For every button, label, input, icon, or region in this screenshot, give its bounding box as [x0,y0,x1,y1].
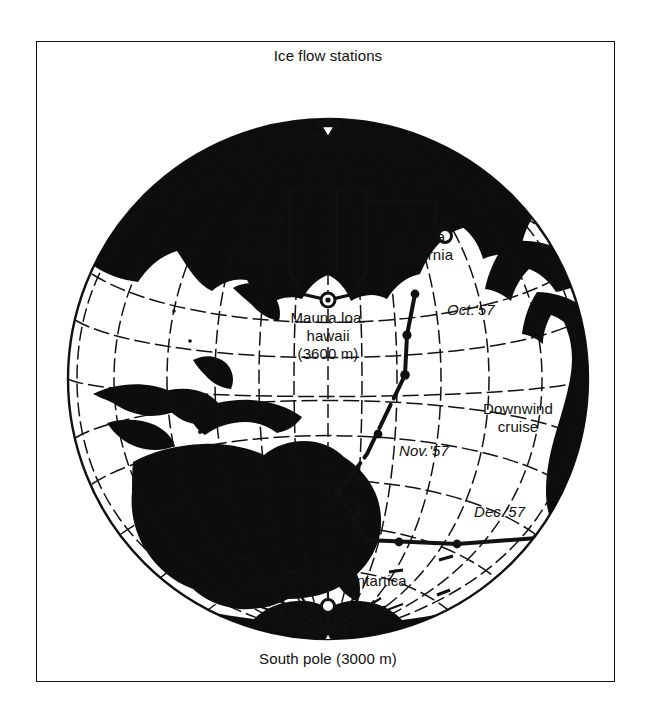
label-la-jolla: La Jolla. California [363,228,479,264]
aircraft-tracks-line2: tracks [199,228,319,246]
island-dot [188,339,192,343]
la-jolla-line2: California [363,246,479,264]
mauna-loa-line1: Mauna loa. [268,309,388,327]
island-dot [228,458,232,462]
label-dec-57: Dec.'57 [474,503,525,520]
aircraft-tracks-line1: Aircraft [199,210,319,228]
little-america-marker [322,600,335,613]
label-aircraft-tracks: Aircraft tracks (6000 m) [199,210,319,264]
label-little-america: Little america, antartica [249,572,407,589]
mauna-loa-line3: (3600 m) [268,345,388,363]
label-south-pole: South pole (3000 m) [259,650,397,667]
label-oct-57: Oct.'57 [447,301,495,318]
globe-map: Ice flow stations Aircraft tracks (6000 … [37,42,616,683]
island-dot [245,473,250,478]
island-dot [198,430,202,434]
la-jolla-line1: La Jolla. [363,228,479,246]
label-ice-flow-stations: Ice flow stations [274,47,382,64]
cruise-leg-dec2 [537,538,571,550]
cruise-leg-oct2 [405,335,407,375]
downwind-line1: Downwind [458,400,578,418]
aircraft-tracks-line3: (6000 m) [199,246,319,264]
label-nov-57: Nov.'57 [399,442,449,459]
island-dot [261,489,265,493]
downwind-line2: cruise [458,418,578,436]
island-dot [293,518,297,522]
figure-frame: Ice flow stations Aircraft tracks (6000 … [36,41,615,682]
island-dot [276,503,280,507]
mauna-loa-line2: hawaii [268,327,388,345]
island-dot [209,445,214,450]
label-downwind-cruise: Downwind cruise [458,400,578,436]
label-mauna-loa: Mauna loa. hawaii (3600 m) [268,309,388,363]
